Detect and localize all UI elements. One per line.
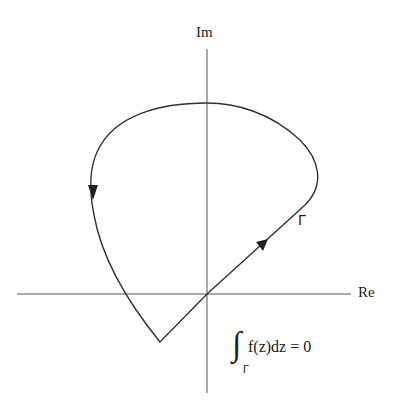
integral-symbol: ∫ bbox=[232, 327, 241, 361]
integral-expression: f(z)dz = 0 bbox=[248, 338, 311, 356]
complex-plane-diagram: Im Re Γ ∫ Γ f(z)dz = 0 bbox=[0, 0, 402, 403]
arrow-down-icon bbox=[88, 185, 98, 200]
contour-gamma bbox=[91, 103, 318, 342]
diagram-canvas bbox=[0, 0, 402, 403]
contour-label: Γ bbox=[298, 211, 306, 228]
arrow-up-right-icon bbox=[256, 239, 268, 251]
imaginary-axis-label: Im bbox=[196, 24, 213, 41]
real-axis-label: Re bbox=[358, 284, 375, 301]
integral-subscript: Γ bbox=[243, 363, 249, 375]
